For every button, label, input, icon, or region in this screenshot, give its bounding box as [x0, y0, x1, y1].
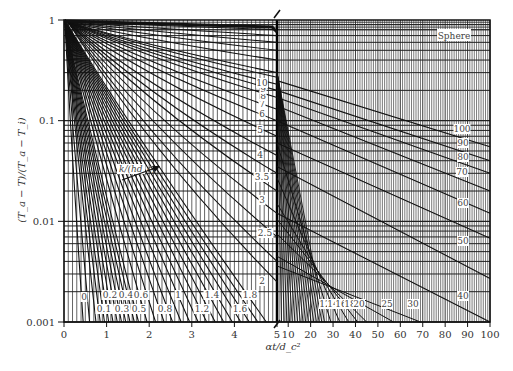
- curve-label: 0.8: [158, 304, 173, 314]
- x-tick-label: 10: [282, 329, 295, 340]
- curve-label: 5: [257, 125, 263, 135]
- curve-label: 40: [457, 291, 469, 301]
- curve-label: 4: [257, 150, 263, 160]
- curve-label: 0: [81, 292, 87, 302]
- sphere-label: Sphere: [438, 31, 471, 41]
- y-tick-label: 1: [49, 15, 55, 26]
- curve-label: 3.5: [255, 172, 270, 182]
- y-axis-ticks: 10.10.010.001: [26, 15, 64, 328]
- x-tick-label: 4: [231, 329, 237, 340]
- x-tick-label: 80: [439, 329, 452, 340]
- curve-label: 2.5: [258, 228, 273, 238]
- curve-label: 0.3: [115, 304, 130, 314]
- x-tick-label: 1: [103, 329, 109, 340]
- curve-label: 1.4: [205, 290, 220, 300]
- curve-label: 1.8: [243, 290, 258, 300]
- curve-label: 0.5: [132, 304, 147, 314]
- x-tick-label: 3: [189, 329, 195, 340]
- curve-label: 20: [353, 299, 365, 309]
- x-tick-label: 90: [461, 329, 474, 340]
- curve-label: 0.1: [97, 304, 111, 314]
- x-axis-ticks: 012345102030405060708090100: [61, 322, 500, 340]
- curve-label: 70: [456, 167, 468, 177]
- curve-label: 60: [457, 198, 469, 208]
- curve-label: 0.2: [103, 290, 117, 300]
- y-tick-label: 0.01: [33, 216, 55, 227]
- x-tick-label: 30: [327, 329, 340, 340]
- x-tick-label: 70: [416, 329, 429, 340]
- nomograph-chart: 10.10.010.001 01234510203040506070809010…: [0, 0, 513, 371]
- curve-label: 1.6: [233, 304, 248, 314]
- curve-label: 6: [259, 109, 265, 119]
- curve-label: 50: [457, 236, 469, 246]
- curve-label: 2: [259, 276, 265, 286]
- x-tick-label: 2: [146, 329, 152, 340]
- curve-labels: 00.10.20.30.40.50.60.811.21.41.61.822.53…: [81, 78, 471, 314]
- x-tick-label: 0: [61, 329, 67, 340]
- x-tick-label: 50: [372, 329, 385, 340]
- curve-label: 0.6: [134, 290, 149, 300]
- curve-label: 1: [175, 290, 181, 300]
- x-tick-label: 20: [304, 329, 317, 340]
- x-tick-label: 100: [480, 329, 499, 340]
- y-axis-label: (T_a − T)/(T_a − T_i): [16, 117, 28, 222]
- x-tick-label: 5: [274, 329, 280, 340]
- curve-label: 1.2: [195, 304, 209, 314]
- curve-label: 0.4: [119, 290, 134, 300]
- curve-label: 3: [259, 195, 265, 205]
- y-tick-label: 0.1: [39, 115, 55, 126]
- curve-label: 25: [381, 299, 393, 309]
- x-axis-label: αt/d_c²: [265, 341, 300, 353]
- curve-label: 10: [256, 78, 268, 88]
- curve-label: 30: [407, 299, 419, 309]
- curve-label: 80: [457, 152, 469, 162]
- curve-label: 100: [453, 124, 470, 134]
- x-tick-label: 40: [349, 329, 362, 340]
- y-tick-label: 0.001: [26, 317, 55, 328]
- x-tick-label: 60: [394, 329, 407, 340]
- curve-label: 90: [457, 138, 469, 148]
